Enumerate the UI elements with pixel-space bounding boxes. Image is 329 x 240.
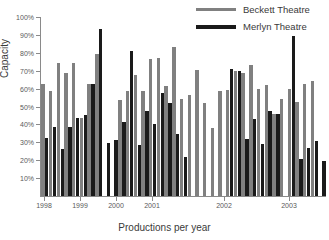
bar-beckett-18 (172, 47, 175, 196)
bar-beckett-3 (57, 63, 60, 196)
bar-beckett-7 (87, 84, 90, 196)
legend-item-beckett: Beckett Theatre (196, 3, 310, 16)
y-axis-title: Capacity (0, 39, 10, 78)
x-tick-label-1999: 1999 (72, 202, 88, 209)
x-tick-label-2002: 2002 (216, 202, 232, 209)
bar-beckett-30 (265, 85, 268, 196)
capacity-bar-chart: Beckett Theatre Merlyn Theatre 10%20%30%… (0, 0, 329, 240)
y-tick-label-10: 10% (20, 175, 34, 182)
y-tick-label-80: 80% (20, 50, 34, 57)
bar-beckett-2 (49, 91, 52, 196)
x-axis-title: Productions per year (0, 222, 329, 233)
bar-beckett-5 (72, 63, 75, 196)
bar-beckett-28 (249, 65, 252, 196)
x-tick-label-2003: 2003 (281, 202, 297, 209)
bar-beckett-21 (195, 70, 198, 196)
bar-beckett-23 (211, 128, 214, 196)
x-tick-label-1998: 1998 (36, 202, 52, 209)
bar-beckett-13 (134, 75, 137, 196)
bar-beckett-4 (64, 73, 67, 196)
bar-beckett-15 (149, 59, 152, 196)
bar-beckett-27 (241, 73, 244, 197)
bar-merlyn-36 (315, 141, 318, 196)
y-tick-label-100: 100% (16, 14, 34, 21)
y-tick-label-90: 90% (20, 32, 34, 39)
y-tick-label-20: 20% (20, 157, 34, 164)
bar-beckett-24 (218, 91, 221, 196)
bar-beckett-19 (180, 99, 183, 196)
bar-beckett-34 (295, 102, 298, 196)
legend-swatch-beckett (196, 8, 236, 11)
bar-beckett-31 (272, 114, 275, 196)
bar-beckett-16 (157, 58, 160, 196)
bar-beckett-12 (126, 91, 129, 196)
bar-beckett-6 (80, 118, 83, 196)
bar-beckett-17 (164, 86, 167, 196)
bar-beckett-20 (188, 95, 191, 196)
bar-beckett-8 (95, 54, 98, 196)
bar-beckett-26 (234, 71, 237, 196)
x-tick-label-2001: 2001 (144, 202, 160, 209)
y-tick-label-60: 60% (20, 86, 34, 93)
plot-area (40, 17, 325, 196)
x-tick-label-2000: 2000 (108, 202, 124, 209)
y-tick-label-70: 70% (20, 68, 34, 75)
bar-merlyn-9 (107, 143, 110, 196)
bar-beckett-22 (203, 103, 206, 196)
bar-beckett-25 (226, 90, 229, 197)
bar-beckett-14 (141, 91, 144, 196)
bar-beckett-35 (303, 84, 306, 196)
x-axis-tick-labels: 199819992000200120022003 (40, 197, 326, 209)
bar-beckett-29 (257, 89, 260, 196)
y-tick-label-30: 30% (20, 139, 34, 146)
y-tick-label-50: 50% (20, 104, 34, 111)
bar-beckett-11 (118, 100, 121, 196)
y-tick-label-40: 40% (20, 121, 34, 128)
bar-beckett-33 (288, 89, 291, 196)
bar-beckett-1 (41, 84, 44, 196)
bar-beckett-32 (280, 99, 283, 196)
bar-merlyn-37 (322, 161, 325, 196)
legend-label-beckett: Beckett Theatre (243, 5, 310, 15)
bar-beckett-36 (311, 81, 314, 196)
bar-merlyn-8 (99, 29, 102, 196)
